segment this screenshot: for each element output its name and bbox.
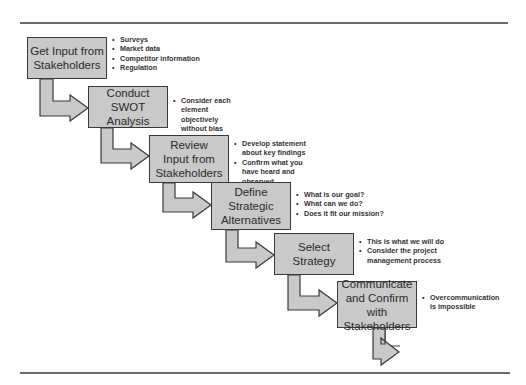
- step-notes-define-alternatives: What is our goal? What can we do? Does i…: [296, 190, 406, 218]
- step-label-line: Strategy: [293, 254, 336, 268]
- step-label-line: Strategic: [221, 199, 281, 213]
- flow-arrow-icon: [40, 79, 88, 121]
- note-item: Consider each element objectively withou…: [173, 96, 243, 134]
- step-box-conduct-swot: Conduct SWOT Analysis: [88, 86, 168, 128]
- step-label-line: Define: [221, 185, 281, 199]
- step-notes-communicate: Overcommunication is impossible: [422, 293, 502, 312]
- step-label-line: Stakeholders: [30, 58, 104, 72]
- note-item: What is our goal?: [296, 190, 406, 199]
- step-notes-get-input: Surveys Market data Competitor informati…: [112, 35, 242, 73]
- flow-arrow-icon: [163, 183, 211, 218]
- note-item: What can we do?: [296, 199, 406, 208]
- note-item: Market data: [112, 44, 242, 53]
- note-item: Develop statement about key findings: [234, 139, 316, 158]
- step-label-line: Stakeholders: [155, 166, 222, 180]
- step-box-select-strategy: Select Strategy: [274, 233, 354, 275]
- step-label-line: Select: [293, 240, 336, 254]
- note-item: Does it fit our mission?: [296, 209, 406, 218]
- step-label-line: Analysis: [91, 114, 165, 128]
- step-label-line: and Confirm with: [340, 291, 414, 319]
- step-label-line: Alternatives: [221, 213, 281, 227]
- step-label-line: Review: [155, 138, 222, 152]
- note-item: Competitor information: [112, 54, 242, 63]
- step-box-get-input: Get Input from Stakeholders: [27, 37, 107, 79]
- step-label-line: Communicate: [340, 277, 414, 291]
- flow-arrow-icon: [101, 128, 149, 169]
- flow-arrow-icon: [288, 275, 337, 316]
- step-notes-select-strategy: This is what we will do Consider the pro…: [359, 237, 459, 265]
- flow-arrow-icon: [226, 230, 274, 268]
- step-box-communicate: Communicate and Confirm with Stakeholder…: [337, 281, 417, 328]
- note-item: Consider the project management process: [359, 246, 459, 265]
- step-notes-conduct-swot: Consider each element objectively withou…: [173, 96, 243, 134]
- note-item: This is what we will do: [359, 237, 459, 246]
- step-notes-review-input: Develop statement about key findings Con…: [234, 139, 316, 186]
- step-label-line: Get Input from: [30, 44, 104, 58]
- step-label-line: Conduct SWOT: [91, 86, 165, 114]
- note-item: Regulation: [112, 63, 242, 72]
- step-label-line: Input from: [155, 152, 222, 166]
- step-box-review-input: Review Input from Stakeholders: [149, 135, 229, 183]
- step-box-define-alternatives: Define Strategic Alternatives: [211, 182, 291, 230]
- note-item: Overcommunication is impossible: [422, 293, 502, 312]
- step-label-line: Stakeholders: [340, 319, 414, 333]
- note-item: Surveys: [112, 35, 242, 44]
